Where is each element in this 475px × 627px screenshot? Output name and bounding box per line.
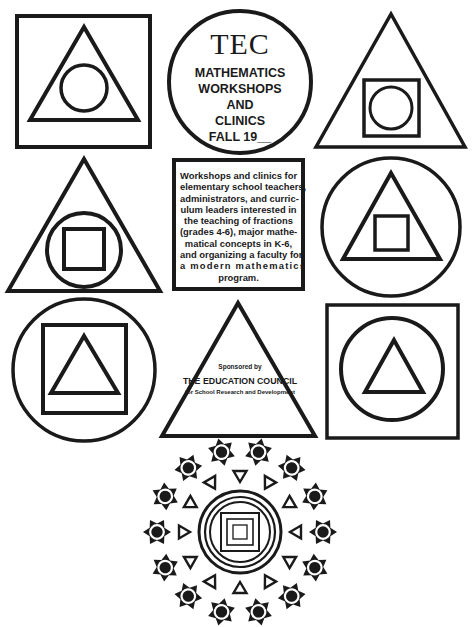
title-line-4: CLINICS bbox=[167, 114, 313, 128]
mandala-star bbox=[244, 436, 274, 469]
description-line: and organizing a faculty for bbox=[180, 249, 297, 260]
mandala-star bbox=[297, 551, 333, 585]
mandala-star bbox=[207, 436, 237, 469]
mandala-triangle bbox=[184, 496, 200, 513]
description-line: program. bbox=[180, 272, 297, 283]
sponsor-subtitle: for School Research and Development bbox=[160, 388, 320, 397]
mandala-triangle bbox=[204, 476, 221, 492]
mandala-triangle bbox=[234, 471, 247, 482]
mandala-star bbox=[170, 449, 206, 486]
mandala-star bbox=[273, 449, 309, 486]
description-text: Workshops and clinics for elementary sch… bbox=[180, 170, 297, 283]
figure-triangle-circle-square bbox=[8, 159, 160, 291]
mandala-star bbox=[143, 520, 171, 544]
mandala-emblem bbox=[143, 436, 337, 627]
mandala-star bbox=[297, 479, 333, 513]
description-line: ulum leaders interested in bbox=[180, 204, 297, 215]
mandala-triangle bbox=[280, 551, 296, 568]
mandala-triangle bbox=[259, 476, 276, 492]
description-line: (grades 4-6), major mathe- bbox=[180, 226, 297, 237]
sponsor-block: Sponsored by THE EDUCATION COUNCIL for S… bbox=[160, 362, 320, 397]
org-acronym: TEC bbox=[167, 29, 313, 59]
mandala-star bbox=[147, 479, 183, 513]
mandala-star bbox=[170, 578, 206, 615]
sponsor-label: Sponsored by bbox=[160, 362, 320, 371]
mandala-star bbox=[207, 596, 237, 627]
description-line: administrators, and curric- bbox=[180, 193, 297, 204]
figure-square-triangle-circle bbox=[17, 16, 150, 147]
title-block: TEC MATHEMATICS WORKSHOPS AND CLINICS FA… bbox=[167, 10, 313, 156]
mandala-triangle bbox=[184, 551, 200, 568]
figure-circle-triangle-square bbox=[322, 158, 460, 296]
figure-triangle-square-circle bbox=[316, 14, 465, 147]
mandala-star bbox=[244, 596, 274, 627]
title-line-5: FALL 19__ bbox=[167, 130, 313, 144]
figure-square-circle-triangle bbox=[327, 305, 458, 438]
description-line: matical concepts in K-6, bbox=[180, 238, 297, 249]
mandala-star bbox=[147, 551, 183, 585]
mandala-triangle bbox=[234, 582, 247, 593]
mandala-triangle bbox=[280, 496, 296, 513]
description-line: the teaching of fractions bbox=[180, 215, 297, 226]
mandala-triangle bbox=[290, 526, 301, 539]
mandala-star bbox=[309, 520, 337, 544]
description-line: elementary school teachers, bbox=[180, 181, 297, 192]
figure-circle-square-triangle bbox=[13, 299, 155, 441]
title-line-2: WORKSHOPS bbox=[167, 82, 313, 96]
mandala-star bbox=[273, 578, 309, 615]
mandala-triangle bbox=[259, 572, 276, 588]
description-line: a modern mathematics bbox=[180, 260, 297, 271]
mandala-triangle bbox=[179, 526, 190, 539]
description-box: Workshops and clinics for elementary sch… bbox=[172, 158, 305, 291]
mandala-triangle bbox=[204, 572, 221, 588]
sponsor-organization: THE EDUCATION COUNCIL bbox=[160, 376, 320, 387]
title-line-1: MATHEMATICS bbox=[167, 66, 313, 80]
title-line-3: AND bbox=[167, 98, 313, 112]
description-line: Workshops and clinics for bbox=[180, 170, 297, 181]
